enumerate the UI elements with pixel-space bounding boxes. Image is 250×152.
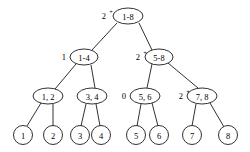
tree-internal-node[interactable]: 1-8 (113, 8, 143, 24)
tree-leaf-node[interactable]: 4 (92, 126, 111, 145)
tree-internal-node[interactable]: 5, 6 (130, 88, 160, 104)
node-label: 2 (51, 131, 55, 141)
node-label: 5-8 (153, 53, 164, 63)
tree-leaf-node[interactable]: 1 (14, 126, 33, 145)
node-label: 1, 2 (42, 92, 55, 102)
node-label: 3, 4 (86, 92, 100, 102)
tree-edges-group (27, 23, 224, 127)
tree-edge (91, 65, 95, 88)
tree-edge (210, 103, 224, 127)
tree-edge (192, 104, 196, 126)
tree-edge (168, 63, 198, 88)
node-side-superscript-plus: + (109, 8, 113, 15)
tree-diagram-container: 1-81-45-81, 23, 45, 67, 812345678 2+12+0… (0, 0, 250, 152)
tree-edge (92, 23, 117, 50)
node-side-superscript-plus: + (143, 49, 147, 56)
node-label: 1 (21, 131, 25, 141)
tree-leaf-node[interactable]: 2 (44, 126, 63, 145)
tree-leaf-node[interactable]: 6 (150, 126, 169, 145)
node-side-label: 2 (179, 91, 183, 101)
tree-edge (139, 23, 152, 50)
tree-nodes-group: 1-81-45-81, 23, 45, 67, 812345678 (14, 8, 238, 145)
node-side-label: 0 (122, 91, 126, 101)
node-side-label: 2 (102, 11, 106, 21)
node-side-label: 1 (62, 52, 66, 62)
node-label: 7 (190, 131, 194, 141)
tree-edge (55, 64, 76, 89)
tree-internal-node[interactable]: 1-4 (70, 49, 98, 65)
tree-internal-node[interactable]: 7, 8 (187, 88, 217, 104)
node-label: 1-8 (122, 12, 133, 22)
node-label: 3 (78, 131, 82, 141)
node-label: 6 (157, 131, 161, 141)
tree-edge (27, 103, 41, 126)
tree-leaf-node[interactable]: 3 (71, 126, 90, 145)
node-side-superscript-plus: + (186, 88, 190, 95)
node-label: 5, 6 (139, 92, 152, 102)
tree-internal-node[interactable]: 1, 2 (33, 88, 63, 104)
tree-internal-node[interactable]: 3, 4 (77, 88, 107, 104)
tree-leaf-node[interactable]: 5 (127, 126, 146, 145)
tree-edge (137, 104, 141, 126)
tree-edge (81, 104, 86, 126)
tree-edge (152, 103, 158, 126)
node-side-label: 2 (136, 52, 140, 62)
tree-edge (96, 104, 100, 126)
node-label: 5 (134, 131, 138, 141)
node-label: 1-4 (78, 53, 90, 63)
node-label: 8 (226, 131, 230, 141)
node-label: 7, 8 (196, 92, 209, 102)
tree-leaf-node[interactable]: 7 (183, 126, 202, 145)
tree-edge (147, 64, 152, 88)
tree-leaf-node[interactable]: 8 (219, 126, 238, 145)
tree-diagram-svg: 1-81-45-81, 23, 45, 67, 812345678 2+12+0… (0, 0, 250, 152)
tree-internal-node[interactable]: 5-8 (145, 49, 173, 65)
